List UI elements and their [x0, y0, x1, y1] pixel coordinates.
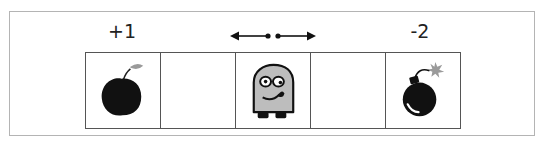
grid-cell-0	[86, 53, 161, 128]
grid-world	[85, 52, 461, 129]
reward-label-bomb: -2	[390, 20, 450, 42]
grid-cell-1	[161, 53, 236, 128]
left-right-arrows-icon	[228, 26, 318, 46]
reward-label-apple: +1	[92, 20, 152, 42]
grid-cell-4	[386, 53, 460, 128]
bomb-icon	[386, 53, 460, 128]
apple-icon	[86, 53, 160, 128]
grid-cell-3	[311, 53, 386, 128]
grid-cell-2	[236, 53, 311, 128]
robot-character-icon	[236, 53, 310, 128]
